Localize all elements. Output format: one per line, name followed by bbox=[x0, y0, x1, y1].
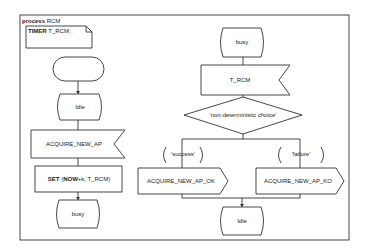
answer-failure-left-paren bbox=[279, 147, 282, 163]
now-keyword: NOW bbox=[63, 176, 78, 182]
answer-failure-right-paren bbox=[321, 147, 324, 163]
set-keyword: SET bbox=[48, 176, 60, 182]
timer-declaration: TIMER T_RCM; bbox=[28, 28, 71, 34]
set-args: +k, T_RCM) bbox=[78, 176, 110, 182]
state-busy-right-label: busy bbox=[236, 39, 249, 45]
answer-success-left-paren bbox=[164, 147, 167, 163]
output-ok-label: ACQUIRE_NEW_AP_OK bbox=[147, 178, 215, 184]
process-keyword: process bbox=[22, 18, 45, 24]
answer-failure-label: 'failure' bbox=[292, 151, 311, 157]
process-name: RCM bbox=[47, 18, 61, 24]
timer-value: T_RCM; bbox=[48, 28, 70, 34]
process-frame bbox=[20, 15, 349, 240]
output-ko-label: ACQUIRE_NEW_AP_KO bbox=[264, 178, 332, 184]
process-header: process RCM bbox=[22, 18, 60, 24]
answer-success-label: 'success' bbox=[171, 151, 195, 157]
start-symbol bbox=[53, 57, 104, 81]
sdl-diagram bbox=[0, 0, 368, 252]
input-t-rcm-label: T_RCM bbox=[230, 77, 251, 83]
decision-label: 'non-deterministic choice' bbox=[210, 112, 277, 118]
answer-success-right-paren bbox=[200, 147, 203, 163]
input-acquire-new-ap-label: ACQUIRE_NEW_AP bbox=[46, 141, 102, 147]
state-busy-left-label: busy bbox=[72, 211, 85, 217]
timer-keyword: TIMER bbox=[28, 28, 47, 34]
state-idle-left-label: Idle bbox=[75, 104, 85, 110]
state-idle-right-label: Idle bbox=[237, 218, 247, 224]
task-set-label: SET (NOW+k, T_RCM) bbox=[48, 176, 110, 182]
